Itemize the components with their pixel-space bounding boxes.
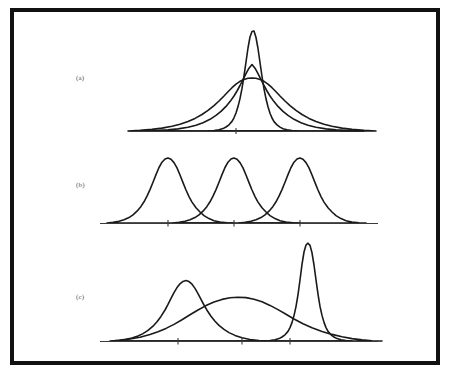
panel-label-c: (c) xyxy=(76,293,84,301)
figure-root: (a) (b) (c) xyxy=(0,0,450,376)
curve-a-narrow xyxy=(208,31,298,131)
panel-a-curves xyxy=(128,31,376,131)
curve-b-right xyxy=(239,158,366,223)
curve-a-medium xyxy=(140,65,364,131)
curve-c-broad-center xyxy=(110,297,382,341)
panel-b xyxy=(100,158,378,227)
panel-label-b: (b) xyxy=(76,181,85,189)
curve-c-left-medium xyxy=(112,281,268,341)
curve-a-wide xyxy=(128,78,376,131)
panel-c xyxy=(100,243,382,344)
panel-label-a: (a) xyxy=(76,74,84,82)
panel-b-curves xyxy=(107,158,366,223)
panel-a xyxy=(128,31,376,134)
gaussian-plot-stack xyxy=(0,0,450,376)
panel-c-curves xyxy=(110,243,382,341)
